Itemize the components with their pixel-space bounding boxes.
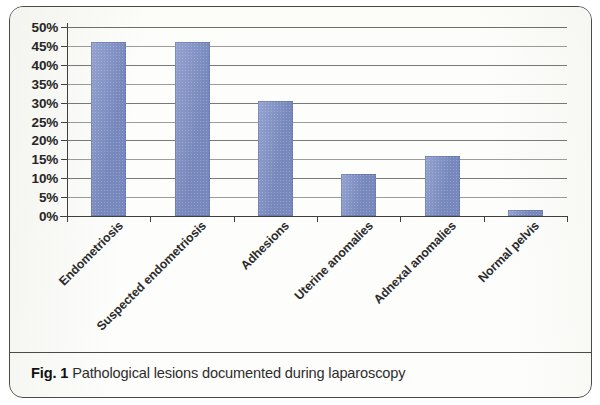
x-axis-tick-label-text: Normal pelvis — [476, 219, 542, 285]
y-axis-tick-label: 25% — [32, 114, 58, 129]
figure-container: 0%5%10%15%20%25%30%35%40%45%50% Endometr… — [9, 6, 592, 398]
x-axis-tick-label-text: Adnexal anomalies — [371, 219, 459, 307]
gridline — [67, 46, 567, 47]
x-axis-tick-label-text: Uterine anomalies — [291, 219, 375, 303]
y-axis-tick-mark — [61, 178, 67, 179]
figure-caption-text: Pathological lesions documented during l… — [72, 365, 405, 381]
x-axis-tick-mark — [567, 216, 568, 222]
gridline — [67, 140, 567, 141]
gridline — [67, 122, 567, 123]
bar — [91, 42, 126, 216]
y-axis-tick-mark — [61, 27, 67, 28]
y-axis-tick-mark — [61, 46, 67, 47]
x-axis-tick-mark — [67, 216, 68, 222]
y-axis-tick-mark — [61, 140, 67, 141]
bar — [175, 42, 210, 216]
plot-area: 0%5%10%15%20%25%30%35%40%45%50% Endometr… — [67, 27, 567, 216]
y-axis-tick-label: 0% — [39, 209, 58, 224]
x-axis-tick-mark — [400, 216, 401, 222]
gridline — [67, 65, 567, 66]
y-axis-tick-label: 5% — [39, 190, 58, 205]
y-axis-tick-mark — [61, 159, 67, 160]
y-axis-tick-label: 30% — [32, 95, 58, 110]
gridline — [67, 27, 567, 28]
x-axis-tick-mark — [317, 216, 318, 222]
y-axis-tick-label: 45% — [32, 38, 58, 53]
y-axis-tick-label: 35% — [32, 76, 58, 91]
y-axis-tick-mark — [61, 122, 67, 123]
figure-caption-label: Fig. 1 — [31, 365, 68, 381]
bar-chart: 0%5%10%15%20%25%30%35%40%45%50% Endometr… — [10, 7, 592, 347]
x-axis-tick-label-text: Endometriosis — [56, 219, 126, 289]
gridline — [67, 103, 567, 104]
caption-divider — [10, 352, 591, 353]
figure-caption: Fig. 1 Pathological lesions documented d… — [31, 364, 577, 382]
y-axis-tick-label: 15% — [32, 152, 58, 167]
y-axis-tick-label: 10% — [32, 171, 58, 186]
y-axis-tick-mark — [61, 84, 67, 85]
x-axis-tick-mark — [234, 216, 235, 222]
y-axis-tick-mark — [61, 103, 67, 104]
y-axis-tick-label: 20% — [32, 133, 58, 148]
gridline — [67, 84, 567, 85]
y-axis-tick-mark — [61, 65, 67, 66]
x-axis-tick-mark — [150, 216, 151, 222]
x-axis-tick-label-text: Adhesions — [238, 219, 292, 273]
y-axis-tick-mark — [61, 197, 67, 198]
x-axis-line — [60, 216, 567, 217]
gridline — [67, 159, 567, 160]
x-axis-tick-mark — [484, 216, 485, 222]
y-axis-tick-label: 50% — [32, 20, 58, 35]
y-axis-tick-label: 40% — [32, 57, 58, 72]
